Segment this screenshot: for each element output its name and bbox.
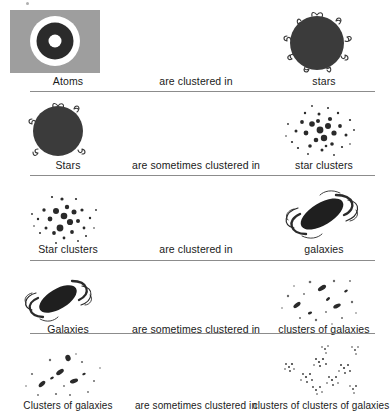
galaxy-cluster-icon xyxy=(264,272,386,328)
row-divider-2 xyxy=(30,175,375,176)
galaxy-icon xyxy=(262,186,384,244)
label-left: Star clusters xyxy=(4,242,132,256)
row-star-clusters-labels: Star clusters are clustered in galaxies xyxy=(0,242,390,258)
star-cluster-icon xyxy=(12,188,132,248)
label-right: clusters of clusters of galaxies xyxy=(252,399,390,413)
label-right: star clusters xyxy=(260,158,388,172)
galaxy-icon xyxy=(6,274,126,328)
label-right: stars xyxy=(260,74,388,88)
label-left: Clusters of galaxies xyxy=(4,399,132,413)
row-atoms: Atoms are clustered in stars xyxy=(0,8,390,92)
supercluster-icon xyxy=(256,344,378,400)
star-cluster-icon xyxy=(262,100,384,162)
galaxy-cluster-icon xyxy=(12,348,132,402)
cosmic-hierarchy-diagram: Atoms are clustered in stars xyxy=(0,0,390,416)
label-relation: are clustered in xyxy=(126,74,266,88)
row-divider-4 xyxy=(30,333,375,334)
row-stars: Stars are sometimes clustered in star cl… xyxy=(0,100,390,176)
row-galaxy-clusters: Clusters of galaxies are sometimes clust… xyxy=(0,344,390,416)
row-galaxies-labels: Galaxies are sometimes clustered in clus… xyxy=(0,322,390,338)
label-right: galaxies xyxy=(260,242,388,256)
scan-artifact-speck xyxy=(26,2,29,5)
row-divider-3 xyxy=(30,260,375,261)
star-icon xyxy=(12,102,132,164)
label-relation: are sometimes clustered in xyxy=(126,399,266,413)
label-left: Stars xyxy=(4,158,132,172)
row-star-clusters: Star clusters are clustered in galaxies xyxy=(0,186,390,262)
atom-icon xyxy=(2,8,122,76)
row-galaxy-clusters-labels: Clusters of galaxies are sometimes clust… xyxy=(0,399,390,415)
row-divider-1 xyxy=(30,91,375,92)
star-icon xyxy=(256,10,378,80)
row-atoms-labels: Atoms are clustered in stars xyxy=(0,74,390,90)
label-left: Atoms xyxy=(4,74,132,88)
label-relation: are clustered in xyxy=(126,242,266,256)
row-galaxies: Galaxies are sometimes clustered in clus… xyxy=(0,272,390,342)
label-relation: are sometimes clustered in xyxy=(126,158,266,172)
row-stars-labels: Stars are sometimes clustered in star cl… xyxy=(0,158,390,174)
